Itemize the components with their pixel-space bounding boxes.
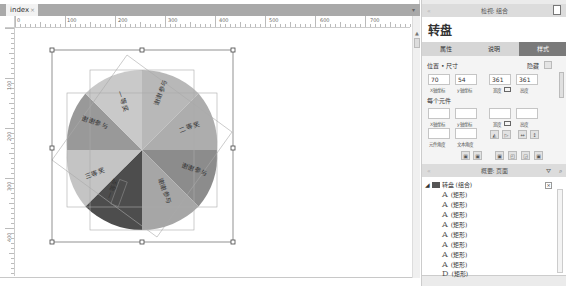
outline-header: « 概要: 页面 ⛛ ⌕	[422, 164, 566, 177]
wheel-widget[interactable]: 一等奖 谢谢参与 二等奖 谢谢参与 谢谢参与 一等奖 三等奖 谢谢参与	[52, 55, 232, 237]
filter-icon[interactable]: ⛛	[546, 164, 551, 177]
list-item-label: (矩形)	[451, 211, 468, 218]
list-item[interactable]: A(矩形)	[442, 230, 467, 240]
position-size-label: 位置 • 尺寸	[427, 61, 458, 70]
each-width-caption: 宽度	[493, 121, 501, 127]
text-shape-icon: A	[442, 240, 448, 249]
shape-icon: D	[442, 269, 448, 278]
inspector-scrollbar[interactable]	[559, 62, 564, 162]
page-icon[interactable]	[553, 5, 561, 15]
width-caption: 宽度	[493, 87, 501, 93]
inspector-tabs: 属性 说明 样式	[422, 42, 566, 56]
list-item-label: (矩形)	[451, 221, 468, 228]
canvas-area[interactable]: index × ▾ 0 100 200 300 400 500 600 700 …	[0, 0, 420, 278]
outline-collapse-icon[interactable]: ×	[545, 182, 552, 189]
lock-ratio-icon[interactable]	[504, 87, 511, 92]
each-x-caption: X轴坐标	[430, 121, 445, 127]
outline-pin-icon[interactable]: «	[427, 164, 431, 177]
each-lock-icon[interactable]	[504, 121, 511, 126]
list-item[interactable]: A(矩形)	[442, 220, 467, 230]
list-item[interactable]: A(矩形)	[442, 250, 467, 260]
x-input[interactable]: 70	[428, 74, 450, 85]
text-shape-icon: A	[442, 220, 448, 229]
outline-scrollbar[interactable]	[557, 189, 563, 273]
text-rotate-caption: 文本角度	[457, 141, 473, 147]
flip-vertical-icon[interactable]: ▷	[502, 130, 511, 139]
text-shape-icon: A	[442, 250, 448, 259]
list-item-label: (矩形)	[451, 270, 468, 277]
y-caption: y轴坐标	[457, 87, 472, 93]
design-stage[interactable]: 一等奖 谢谢参与 二等奖 谢谢参与 谢谢参与 一等奖 三等奖 谢谢参与	[0, 0, 412, 278]
each-y-input[interactable]	[455, 108, 477, 119]
list-item[interactable]: D(矩形)	[442, 269, 468, 279]
search-icon[interactable]: ⌕	[559, 164, 562, 177]
list-item[interactable]: A(矩形)	[442, 190, 467, 200]
folder-icon	[432, 182, 440, 188]
each-y-caption: y轴坐标	[457, 121, 472, 127]
scroll-thumb[interactable]	[414, 38, 420, 48]
pin-icon[interactable]: «	[427, 4, 431, 17]
list-item-label: (矩形)	[451, 231, 468, 238]
height-input[interactable]: 361	[516, 74, 538, 85]
text-shape-icon: A	[442, 260, 448, 269]
each-height-input[interactable]	[516, 108, 538, 119]
distribute-vertical-icon[interactable]: ↕	[530, 130, 539, 139]
outline-header-label: 概要: 页面	[481, 167, 509, 174]
rotate-input[interactable]	[428, 128, 450, 139]
align-top-icon[interactable]: ◰	[508, 151, 517, 160]
text-shape-icon: A	[442, 200, 448, 209]
text-shape-icon: A	[442, 230, 448, 239]
inspector-header: « 检视: 组合	[422, 4, 566, 17]
text-shape-icon: A	[442, 210, 448, 219]
text-shape-icon: A	[442, 190, 448, 199]
each-height-caption: 高度	[520, 121, 528, 127]
outline-tree: ◢转盘 (组合) × A(矩形) A(矩形) A(矩形) A(矩形) A(矩形)…	[422, 177, 566, 276]
arrange-back-icon[interactable]: ▣	[473, 151, 482, 160]
distribute-horizontal-icon[interactable]: ↔	[518, 130, 527, 139]
list-item[interactable]: A(矩形)	[442, 200, 467, 210]
list-item[interactable]: A(矩形)	[442, 240, 467, 250]
tab-style[interactable]: 样式	[519, 42, 566, 56]
flip-horizontal-icon[interactable]: ◭	[490, 130, 499, 139]
align-center-icon[interactable]: ◲	[521, 151, 530, 160]
group-icon[interactable]: ▣	[534, 151, 543, 160]
height-caption: 高度	[520, 87, 528, 93]
style-panel: 位置 • 尺寸 隐藏 70 54 361 361 X轴坐标 y轴坐标 宽度 高度…	[422, 56, 566, 164]
right-panel: « 检视: 组合 转盘 属性 说明 样式 位置 • 尺寸 隐藏 70 54 36…	[421, 0, 566, 286]
scroll-up-icon[interactable]: ▲	[413, 30, 421, 38]
hidden-checkbox[interactable]	[544, 61, 552, 69]
list-item-label: (矩形)	[451, 201, 468, 208]
each-x-input[interactable]	[428, 108, 450, 119]
each-width-input[interactable]	[489, 108, 511, 119]
x-caption: X轴坐标	[430, 87, 445, 93]
list-item-label: (矩形)	[451, 191, 468, 198]
each-element-label: 每个元件	[427, 96, 451, 105]
hidden-label: 隐藏	[527, 61, 539, 70]
expand-icon[interactable]: ◢	[425, 181, 430, 188]
list-item-label: (矩形)	[451, 241, 468, 248]
arrange-front-icon[interactable]: ▣	[461, 151, 470, 160]
outline-root-node[interactable]: ◢转盘 (组合)	[425, 180, 472, 189]
canvas-scrollbar[interactable]: ▲	[412, 16, 420, 278]
inspector-scroll-thumb[interactable]	[559, 72, 564, 98]
tab-notes[interactable]: 说明	[470, 42, 518, 56]
rotate-caption: 元件角度	[429, 141, 445, 147]
y-input[interactable]: 54	[455, 74, 477, 85]
list-item-label: (矩形)	[451, 261, 468, 268]
text-rotate-input[interactable]	[455, 128, 477, 139]
inspector-header-label: 检视: 组合	[481, 7, 509, 14]
list-item-label: (矩形)	[451, 251, 468, 258]
outline-root-label: 转盘 (组合)	[442, 181, 473, 188]
widget-name[interactable]: 转盘	[422, 17, 566, 42]
list-item[interactable]: A(矩形)	[442, 210, 467, 220]
tab-properties[interactable]: 属性	[422, 42, 470, 56]
width-input[interactable]: 361	[489, 74, 511, 85]
align-left-icon[interactable]: ▣	[495, 151, 504, 160]
